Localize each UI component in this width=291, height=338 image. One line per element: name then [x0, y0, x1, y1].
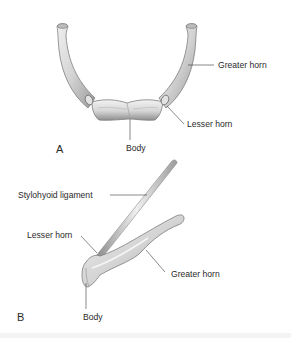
label-a-body: Body [126, 144, 146, 153]
label-b-lesser-horn: Lesser horn [27, 231, 72, 240]
leader-b-lesser-horn [81, 236, 97, 253]
panel-letter-b: B [17, 312, 24, 323]
label-a-greater-horn: Greater horn [218, 61, 267, 70]
figure-svg [0, 0, 291, 338]
panel-a-body [92, 100, 163, 121]
leader-b-greater-horn [146, 250, 165, 272]
label-b-body: Body [83, 313, 103, 322]
hyoid-bone-figure: Greater horn Lesser horn Body A Stylohyo… [0, 0, 291, 338]
leader-a-lesser-horn [167, 106, 184, 124]
panel-letter-a: A [56, 144, 63, 155]
panel-b-greater-horn [82, 215, 184, 287]
label-b-stylohyoid-ligament: Stylohyoid ligament [18, 191, 93, 200]
panel-b-hyoid [82, 160, 184, 287]
panel-a-hyoid [57, 24, 197, 121]
bottom-edge-strip [0, 333, 291, 338]
label-a-lesser-horn: Lesser horn [187, 120, 232, 129]
label-b-greater-horn: Greater horn [171, 270, 220, 279]
